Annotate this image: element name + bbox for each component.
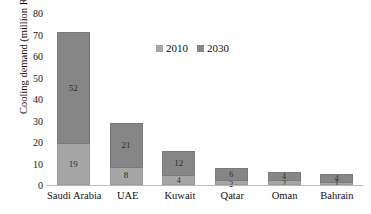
bar-value-label: 2	[282, 179, 286, 188]
x-axis-label-bahrain: Bahrain	[311, 190, 363, 201]
y-tick-label-30: 30	[19, 117, 43, 127]
x-axis-label-oman: Oman	[258, 190, 310, 201]
bar-stack: 6 2	[215, 14, 248, 185]
y-tick-label-20: 20	[19, 138, 43, 148]
x-axis-label-kuwait: Kuwait	[154, 190, 206, 201]
bar-segment-2010[interactable]: 4	[162, 176, 195, 185]
y-tick-label-50: 50	[19, 74, 43, 84]
bar-value-label: 12	[174, 159, 183, 168]
bar-segment-2010[interactable]: 19	[57, 144, 90, 185]
bar-value-label: 21	[122, 141, 131, 150]
bar-segment-2030[interactable]: 21	[110, 123, 143, 168]
x-axis-label-saudi-arabia: Saudi Arabia	[47, 190, 102, 201]
bar-group-qatar: 6 2	[205, 14, 258, 185]
x-axis-category-labels: Saudi Arabia UAE Kuwait Qatar Oman Bahra…	[47, 190, 363, 201]
bar-group-kuwait: 12 4	[152, 14, 205, 185]
bar-stack: 52 19	[57, 14, 90, 185]
bar-value-label: 8	[124, 171, 129, 180]
legend-item-2030[interactable]: 2030	[197, 42, 229, 54]
chart-legend: 2010 2030	[156, 42, 229, 54]
x-axis-label-uae: UAE	[102, 190, 154, 201]
legend-swatch-icon	[197, 45, 204, 52]
bar-stack: 21 8	[110, 14, 143, 185]
bar-segment-2030[interactable]: 52	[57, 32, 90, 144]
legend-label: 2010	[166, 42, 188, 54]
bar-group-oman: 4 2	[258, 14, 311, 185]
y-tick-label-10: 10	[19, 160, 43, 170]
bar-group-uae: 21 8	[100, 14, 153, 185]
y-tick-label-40: 40	[19, 95, 43, 105]
bar-value-label: 52	[69, 84, 78, 93]
legend-label: 2030	[207, 42, 229, 54]
y-tick-label-60: 60	[19, 52, 43, 62]
bar-segment-2010[interactable]: 8	[110, 168, 143, 185]
bar-value-label: 19	[69, 160, 78, 169]
bar-stack: 4 2	[268, 14, 301, 185]
y-tick-label-80: 80	[19, 9, 43, 19]
bar-value-label: 6	[229, 170, 233, 179]
bar-value-label: 4	[177, 176, 181, 185]
y-tick-label-0: 0	[19, 181, 43, 191]
bar-group-bahrain: 4 1	[310, 14, 363, 185]
y-tick-label-70: 70	[19, 31, 43, 41]
bar-series-container: 52 19 21 8	[47, 14, 363, 185]
plot-area: 80 70 60 50 40 30 20 10 0 52 19	[47, 14, 363, 186]
bar-stack: 4 1	[320, 14, 353, 185]
bar-value-label: 1	[335, 179, 339, 188]
bar-stack: 12 4	[162, 14, 195, 185]
stacked-bar-chart: Cooling demand (million RT) 80 70 60 50 …	[0, 0, 371, 214]
x-axis-line	[47, 185, 363, 186]
x-axis-label-qatar: Qatar	[206, 190, 258, 201]
legend-swatch-icon	[156, 45, 163, 52]
legend-item-2010[interactable]: 2010	[156, 42, 188, 54]
bar-segment-2030[interactable]: 12	[162, 151, 195, 177]
bar-group-saudi-arabia: 52 19	[47, 14, 100, 185]
